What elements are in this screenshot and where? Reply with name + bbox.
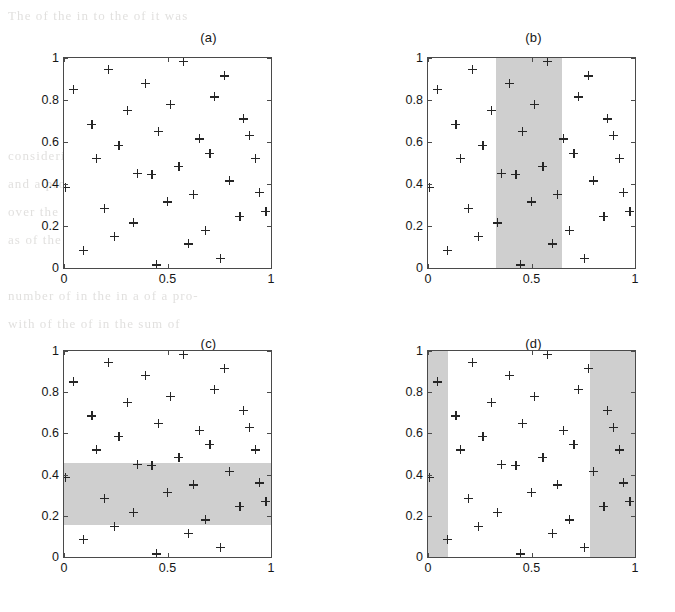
panel-b-title: (b)	[338, 30, 675, 45]
x-tick-label: 1	[268, 561, 275, 575]
scatter-point	[559, 426, 568, 435]
x-tick-top	[532, 58, 533, 62]
scatter-point	[456, 154, 465, 163]
y-tick-right	[267, 392, 271, 393]
y-tick-right	[631, 184, 635, 185]
scatter-point	[468, 358, 477, 367]
y-tick-label: 0.8	[42, 93, 59, 107]
scatter-point	[543, 58, 552, 66]
y-tick-right	[631, 142, 635, 143]
y-tick	[428, 475, 432, 476]
scatter-point	[184, 239, 193, 248]
x-tick	[635, 553, 636, 557]
scatter-point	[599, 502, 608, 511]
scatter-point	[538, 162, 547, 171]
scatter-point	[530, 100, 539, 109]
scatter-point	[615, 445, 624, 454]
y-tick-label: 1	[52, 51, 59, 65]
y-tick	[428, 516, 432, 517]
scatter-point	[79, 246, 88, 255]
scatter-point	[235, 502, 244, 511]
scatter-point	[518, 127, 527, 136]
y-tick	[64, 557, 68, 558]
scatter-point	[220, 364, 229, 373]
scatter-point	[201, 226, 210, 235]
x-tick-top	[532, 351, 533, 355]
scatter-point	[220, 71, 229, 80]
y-tick-label: 1	[52, 344, 59, 358]
scatter-point	[195, 134, 204, 143]
y-tick	[64, 100, 68, 101]
y-tick	[428, 433, 432, 434]
panel-d-title: (d)	[338, 336, 675, 351]
scatter-point	[195, 426, 204, 435]
scatter-point	[87, 411, 96, 420]
x-tick	[168, 553, 169, 557]
scatter-point	[100, 204, 109, 213]
x-tick-label: 0	[61, 272, 68, 286]
y-tick	[428, 351, 432, 352]
scatter-point	[603, 114, 612, 123]
scatter-point	[104, 358, 113, 367]
scatter-point	[245, 131, 254, 140]
scatter-point	[580, 254, 589, 263]
y-tick-right	[267, 433, 271, 434]
scatter-point	[114, 432, 123, 441]
scatter-point	[487, 106, 496, 115]
panel-c: (c) 00.5100.20.40.60.81	[0, 306, 337, 612]
y-tick-label: 0.6	[42, 426, 59, 440]
scatter-point	[69, 377, 78, 386]
x-tick-label: 0.5	[159, 272, 176, 286]
y-tick-right	[267, 58, 271, 59]
y-tick-label: 0.6	[42, 135, 59, 149]
scatter-point	[584, 71, 593, 80]
y-tick-right	[631, 351, 635, 352]
y-tick-label: 0.8	[42, 385, 59, 399]
y-tick-label: 0.6	[406, 426, 423, 440]
x-tick	[168, 264, 169, 268]
panel-d: (d) 00.5100.20.40.60.81	[338, 306, 675, 612]
scatter-point	[553, 190, 562, 199]
scatter-point	[609, 423, 618, 432]
y-tick-label: 0.4	[406, 177, 423, 191]
scatter-point	[433, 85, 442, 94]
y-tick-right	[631, 100, 635, 101]
y-tick	[64, 516, 68, 517]
y-tick	[428, 58, 432, 59]
scatter-point	[205, 440, 214, 449]
shaded-region	[496, 58, 561, 268]
scatter-point	[574, 92, 583, 101]
y-tick-label: 0	[416, 261, 423, 275]
scatter-point	[565, 515, 574, 524]
scatter-point	[574, 385, 583, 394]
y-tick	[64, 392, 68, 393]
scatter-point	[255, 188, 264, 197]
scatter-point	[205, 149, 214, 158]
y-tick-label: 0.2	[406, 509, 423, 523]
scatter-point	[245, 423, 254, 432]
scatter-point	[255, 478, 264, 487]
scatter-point	[216, 254, 225, 263]
scatter-point	[468, 65, 477, 74]
scatter-point	[565, 226, 574, 235]
scatter-point	[493, 508, 502, 517]
x-tick-top	[168, 58, 169, 62]
scatter-point	[123, 398, 132, 407]
scatter-point	[543, 351, 552, 359]
scatter-point	[210, 385, 219, 394]
y-tick-right	[267, 142, 271, 143]
scatter-point	[609, 131, 618, 140]
scatter-point	[518, 419, 527, 428]
y-tick-right	[631, 475, 635, 476]
scatter-point	[493, 218, 502, 227]
scatter-point	[478, 432, 487, 441]
scatter-point	[548, 529, 557, 538]
y-tick-label: 1	[416, 51, 423, 65]
scatter-point	[166, 392, 175, 401]
scatter-point	[79, 535, 88, 544]
y-tick	[64, 475, 68, 476]
scatter-point	[625, 207, 634, 216]
scatter-point	[538, 453, 547, 462]
scatter-point	[505, 371, 514, 380]
y-tick	[428, 268, 432, 269]
